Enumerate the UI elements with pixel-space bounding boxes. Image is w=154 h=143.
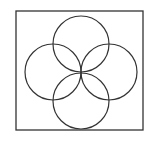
circle-bottom bbox=[53, 73, 109, 129]
circle-top bbox=[53, 16, 109, 72]
diagram-canvas bbox=[0, 0, 154, 143]
circle-left bbox=[25, 44, 81, 100]
circle-right bbox=[81, 44, 137, 100]
square-frame bbox=[16, 11, 143, 130]
circle-group bbox=[25, 16, 137, 129]
